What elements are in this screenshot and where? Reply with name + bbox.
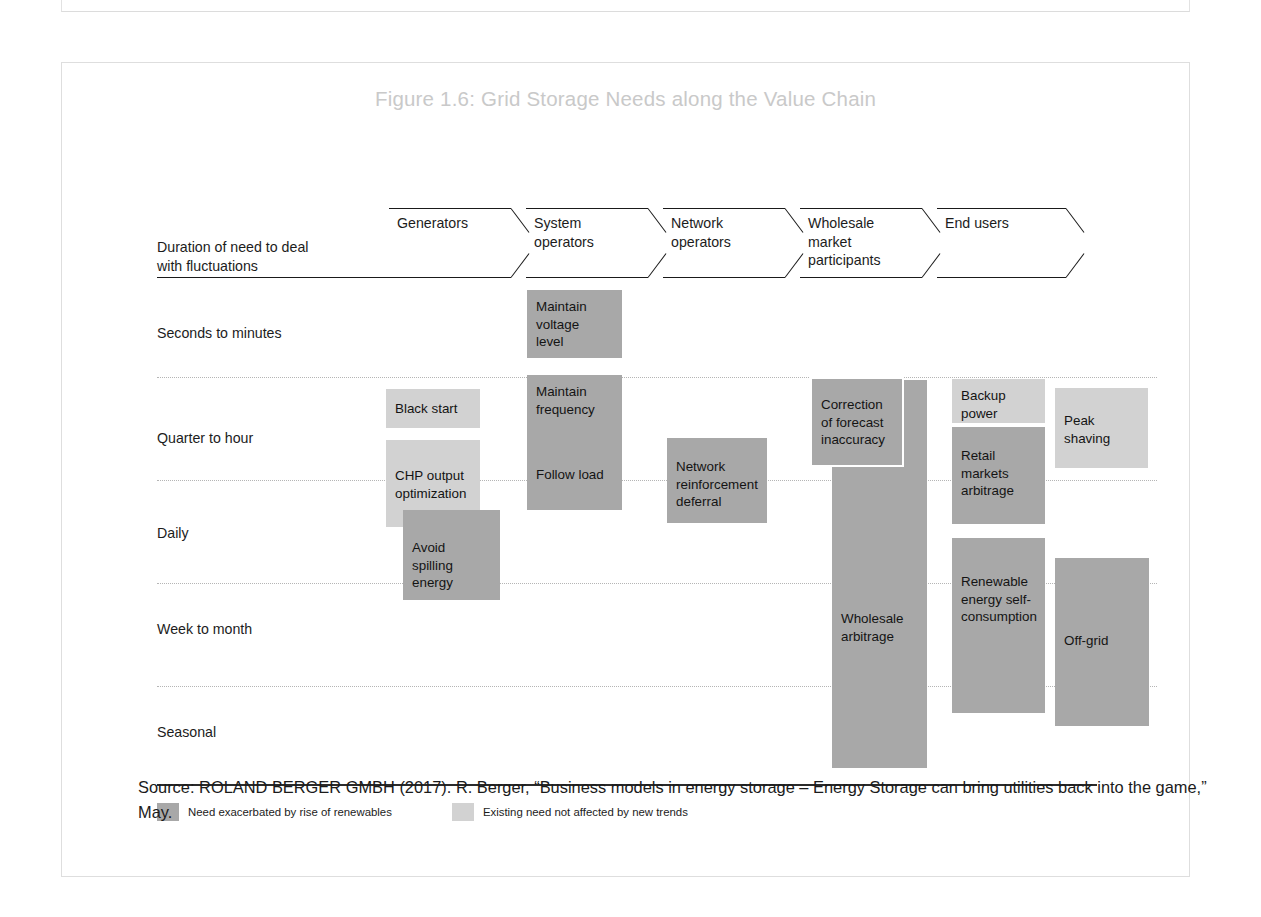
box-correction-of-forecast-inaccuracy[interactable]: Correctionof forecastinaccuracy: [812, 379, 902, 465]
box-maintain-voltage-level[interactable]: Maintainvoltagelevel: [527, 290, 622, 358]
box-off-grid[interactable]: Off-grid: [1055, 558, 1149, 726]
box-label: Renewableenergy self-consumption: [961, 546, 1036, 626]
box-black-start[interactable]: Black start: [386, 389, 480, 428]
row-label-quarter-to-hour: Quarter to hour: [157, 430, 327, 446]
chevron-network-operators: Networkoperators: [663, 208, 811, 278]
page-root: Figure 1.6: Grid Storage Needs along the…: [0, 0, 1261, 917]
box-network-reinforcement-deferral[interactable]: Networkreinforcementdeferral: [667, 438, 767, 523]
box-label: Peakshaving: [1064, 396, 1139, 447]
source-note: Source: ROLAND BERGER GMBH (2017). R. Be…: [138, 775, 1243, 825]
box-backup-power[interactable]: Backuppower: [952, 379, 1045, 423]
chevron-bottom-line: [389, 277, 511, 278]
chevron-label: Networkoperators: [671, 214, 731, 251]
box-renewable-energy-self-consumption[interactable]: Renewableenergy self-consumption: [952, 538, 1045, 713]
box-label: Networkreinforcementdeferral: [676, 446, 758, 511]
box-label: CHP outputoptimization: [395, 448, 471, 502]
box-follow-load[interactable]: Follow load: [527, 440, 622, 510]
figure-card: Figure 1.6: Grid Storage Needs along the…: [61, 62, 1190, 877]
chevron-bottom-line: [937, 277, 1066, 278]
chevron-top-line: [800, 208, 922, 209]
row-label-seasonal: Seasonal: [157, 724, 327, 740]
row-label-daily: Daily: [157, 525, 327, 541]
box-label: Avoidspillingenergy: [412, 518, 491, 592]
row-label-seconds-to-minutes: Seconds to minutes: [157, 325, 327, 341]
box-label: Black start: [395, 400, 458, 418]
chevron-label: Generators: [397, 214, 468, 233]
box-label: Off-grid: [1064, 566, 1140, 650]
chevron-system-operators: Systemoperators: [526, 208, 674, 278]
chevron-end-users: End users: [937, 208, 1092, 278]
duration-axis-label: Duration of need to deal with fluctuatio…: [157, 238, 332, 276]
chevron-top-line: [526, 208, 648, 209]
gridline-1: [157, 377, 1157, 378]
chevron-bottom-line: [800, 277, 922, 278]
box-retail-markets-arbitrage[interactable]: Retailmarketsarbitrage: [952, 427, 1045, 524]
box-label: Maintainfrequency: [536, 384, 595, 417]
row-label-week-to-month: Week to month: [157, 621, 327, 637]
chevron-top-line: [389, 208, 511, 209]
box-label: Maintainvoltagelevel: [536, 299, 587, 349]
figure-title: Figure 1.6: Grid Storage Needs along the…: [62, 87, 1189, 111]
box-maintain-frequency[interactable]: Maintainfrequency: [527, 375, 622, 441]
figure-plot-area: Duration of need to deal with fluctuatio…: [157, 153, 1157, 753]
preceding-box-edge: [61, 0, 1190, 12]
chevron-label: Wholesalemarketparticipants: [808, 214, 881, 270]
chevron-top-line: [937, 208, 1066, 209]
box-label: Follow load: [536, 466, 604, 484]
box-label: Backuppower: [961, 388, 1006, 421]
chevron-top-line: [663, 208, 785, 209]
chevron-label: End users: [945, 214, 1009, 233]
chevron-label: Systemoperators: [534, 214, 594, 251]
box-label: Correctionof forecastinaccuracy: [821, 387, 893, 449]
chevron-bottom-line: [663, 277, 785, 278]
box-peak-shaving[interactable]: Peakshaving: [1055, 388, 1148, 468]
box-avoid-spilling-energy[interactable]: Avoidspillingenergy: [403, 510, 500, 600]
chevron-bottom-line: [526, 277, 648, 278]
chevron-generators: Generators: [389, 208, 537, 278]
chevron-wholesale-market-participants: Wholesalemarketparticipants: [800, 208, 948, 278]
box-label: Retailmarketsarbitrage: [961, 435, 1036, 500]
chevron-arrow-icon: [1066, 208, 1092, 278]
axis-header-rule: [157, 277, 397, 278]
